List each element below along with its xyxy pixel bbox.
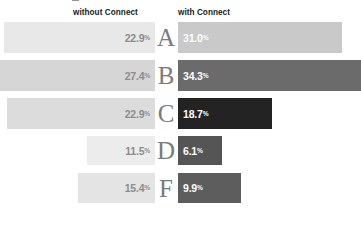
chart-row: 11.5% D 6.1% [0,136,361,165]
bar-value-label: 31.0% [178,32,208,44]
bar-without-connect: 11.5% [87,136,155,165]
row-letter: A [155,22,177,53]
grade-comparison-bar-chart: without Connect with Connect 22.9% A 31.… [0,0,361,229]
row-letter: B [155,60,177,91]
bar-value-label: 11.5% [125,145,155,157]
bar-value-label: 6.1% [178,145,203,157]
bar-with-connect: 34.3% [178,60,361,91]
bar-without-connect: 27.4% [0,60,155,91]
row-letter: D [155,136,177,165]
bar-without-connect: 15.4% [78,173,155,203]
bar-value-label: 22.9% [125,108,155,120]
bar-with-connect: 31.0% [178,22,342,53]
bar-with-connect: 9.9% [178,173,241,203]
bar-value-label: 22.9% [125,32,155,44]
column-header-without-connect: without Connect [73,8,138,17]
bar-value-label: 15.4% [125,182,155,194]
bar-value-label: 18.7% [178,108,208,120]
row-letter: F [155,173,177,203]
bar-value-label: 34.3% [178,70,208,82]
clipped-mark [72,0,79,1]
bar-value-label: 27.4% [125,70,155,82]
row-letter: C [155,98,177,129]
bar-without-connect: 22.9% [7,98,155,129]
bar-with-connect: 18.7% [178,98,272,129]
chart-row: 15.4% F 9.9% [0,173,361,203]
chart-row: 22.9% A 31.0% [0,22,361,53]
bar-value-label: 9.9% [178,182,203,194]
chart-row: 27.4% B 34.3% [0,60,361,91]
bar-with-connect: 6.1% [178,136,222,165]
column-header-with-connect: with Connect [178,8,230,17]
bar-without-connect: 22.9% [4,22,155,53]
chart-row: 22.9% C 18.7% [0,98,361,129]
